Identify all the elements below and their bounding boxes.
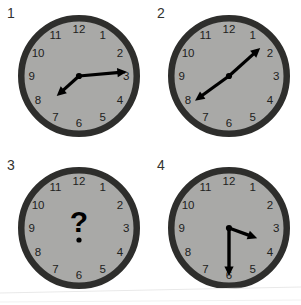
clock-center-pivot (226, 225, 232, 231)
clock-numeral-7: 7 (52, 263, 58, 275)
question-mark: ? (70, 205, 88, 238)
clock-numeral-1: 1 (249, 181, 255, 193)
clock-three: 121234567891011? (0, 152, 150, 304)
clock-numeral-3: 3 (273, 222, 279, 234)
clock-numeral-9: 9 (29, 70, 35, 82)
clock-numeral-2: 2 (117, 199, 123, 211)
clock-center-pivot (76, 73, 82, 79)
clock-numeral-11: 11 (49, 181, 61, 193)
clock-numeral-7: 7 (52, 111, 58, 123)
clock-numeral-12: 12 (223, 23, 236, 35)
clock-numeral-2: 2 (267, 199, 273, 211)
panel-clock-one: 1121234567891011 (0, 0, 150, 152)
clock-numeral-12: 12 (73, 23, 86, 35)
clock-center-pivot (76, 237, 81, 242)
clock-numeral-5: 5 (249, 111, 255, 123)
clock-numeral-10: 10 (182, 47, 195, 59)
clock-numeral-10: 10 (32, 47, 45, 59)
clock-numeral-4: 4 (117, 246, 124, 258)
clock-numeral-8: 8 (185, 246, 191, 258)
clock-numeral-11: 11 (199, 29, 211, 41)
clock-grid: 1121234567891011212123456789101131212345… (0, 0, 301, 305)
clock-numeral-5: 5 (99, 263, 105, 275)
panel-clock-three: 3121234567891011? (0, 152, 150, 304)
panel-clock-two: 2121234567891011 (150, 0, 300, 152)
clock-numeral-1: 1 (99, 29, 105, 41)
clock-numeral-9: 9 (29, 222, 35, 234)
clock-numeral-4: 4 (267, 94, 274, 106)
clock-numeral-10: 10 (182, 199, 195, 211)
clock-numeral-8: 8 (35, 94, 41, 106)
clock-numeral-7: 7 (202, 263, 208, 275)
clock-numeral-1: 1 (249, 29, 255, 41)
clock-numeral-6: 6 (226, 117, 232, 129)
clock-numeral-12: 12 (223, 175, 236, 187)
clock-numeral-11: 11 (49, 29, 61, 41)
clock-numeral-10: 10 (32, 199, 45, 211)
clock-numeral-5: 5 (249, 263, 255, 275)
clock-numeral-2: 2 (267, 47, 273, 59)
clock-two: 121234567891011 (150, 0, 300, 152)
clock-numeral-12: 12 (73, 175, 86, 187)
clock-numeral-9: 9 (179, 70, 185, 82)
clock-numeral-5: 5 (99, 111, 105, 123)
clock-numeral-9: 9 (179, 222, 185, 234)
clock-one: 121234567891011 (0, 0, 150, 152)
clock-numeral-4: 4 (117, 94, 124, 106)
clock-numeral-8: 8 (185, 94, 191, 106)
clock-numeral-6: 6 (76, 117, 82, 129)
clock-numeral-3: 3 (123, 222, 129, 234)
clock-numeral-3: 3 (273, 70, 279, 82)
panel-clock-four: 4121234567891011 (150, 152, 300, 304)
clock-numeral-8: 8 (35, 246, 41, 258)
clock-numeral-4: 4 (267, 246, 274, 258)
clock-four: 121234567891011 (150, 152, 300, 304)
clock-numeral-2: 2 (117, 47, 123, 59)
clock-four-face: 121234567891011 (150, 152, 300, 304)
clock-three-face: 121234567891011? (0, 152, 150, 304)
clock-numeral-11: 11 (199, 181, 211, 193)
clock-numeral-1: 1 (99, 181, 105, 193)
clock-two-face: 121234567891011 (150, 0, 300, 152)
clock-one-face: 121234567891011 (0, 0, 150, 152)
clock-numeral-6: 6 (76, 269, 82, 281)
clock-numeral-7: 7 (202, 111, 208, 123)
clock-center-pivot (226, 73, 232, 79)
